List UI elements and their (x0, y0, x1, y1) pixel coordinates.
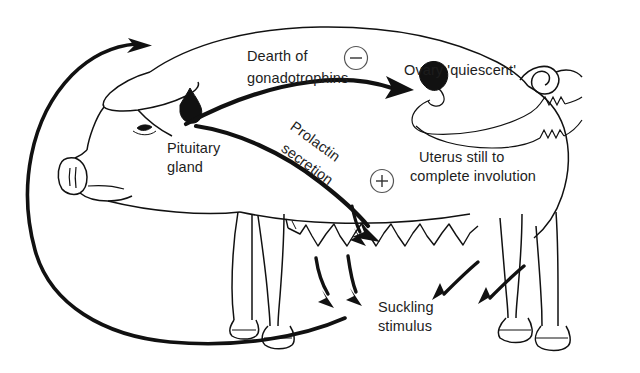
pig-diagram-svg (0, 0, 640, 373)
label-dearth-of: Dearth of (247, 48, 308, 65)
suckling-arrow-3 (432, 262, 478, 300)
label-suckling: Suckling (378, 299, 434, 316)
label-suckling-stimulus: stimulus (378, 318, 432, 335)
suckling-arrow-2 (346, 256, 362, 306)
suckling-arrow-1 (316, 258, 334, 308)
label-pituitary-gland: gland (167, 159, 203, 176)
label-gonadotrophins: gonadotrophins (247, 70, 348, 87)
positive-sign-badge (371, 170, 394, 193)
label-uterus-line2: complete involution (410, 168, 536, 185)
pig-body-outline (58, 27, 582, 238)
negative-sign-badge (345, 47, 368, 70)
suckling-arrows (316, 206, 524, 308)
label-ovary-quiescent: Ovary 'quiescent' (404, 62, 516, 79)
diagram-canvas: Dearth of gonadotrophins Ovary 'quiescen… (0, 0, 640, 373)
label-uterus-line1: Uterus still to (419, 149, 504, 166)
label-pituitary: Pituitary (167, 140, 220, 157)
